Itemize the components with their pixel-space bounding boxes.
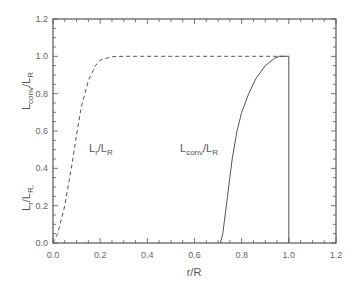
x-tick-label: 1.2 xyxy=(330,250,343,260)
x-tick-label: 0.8 xyxy=(235,250,248,260)
y-tick-label: 0.6 xyxy=(35,126,48,136)
y-tick-label: 0.4 xyxy=(35,163,48,173)
x-axis-label: r/R xyxy=(187,266,202,278)
x-tick-label: 0.4 xyxy=(141,250,154,260)
series-lconv-solid xyxy=(220,56,288,243)
tick-labels: 0.00.20.40.60.81.01.20.00.20.40.60.81.01… xyxy=(35,14,342,260)
chart: 0.00.20.40.60.81.01.20.00.20.40.60.81.01… xyxy=(0,0,357,288)
x-tick-label: 0.0 xyxy=(47,250,60,260)
y-tick-label: 1.0 xyxy=(35,51,48,61)
plot-border xyxy=(53,19,336,243)
y-tick-label: 0.0 xyxy=(35,238,48,248)
annotation-lr: Lr/LR xyxy=(89,142,113,157)
annotation-lconv: Lconv/LR xyxy=(180,142,218,157)
axis-ticks xyxy=(53,19,336,243)
x-tick-label: 0.2 xyxy=(94,250,107,260)
y-axis-label-lr: Lr/LR, xyxy=(20,185,35,211)
y-tick-label: 0.8 xyxy=(35,89,48,99)
plot-frame xyxy=(53,19,336,243)
y-axis-label-lconv: Lconv/LR xyxy=(20,72,35,110)
y-tick-label: 0.2 xyxy=(35,201,48,211)
x-tick-label: 1.0 xyxy=(283,250,296,260)
x-tick-label: 0.6 xyxy=(188,250,201,260)
y-tick-label: 1.2 xyxy=(35,14,48,24)
